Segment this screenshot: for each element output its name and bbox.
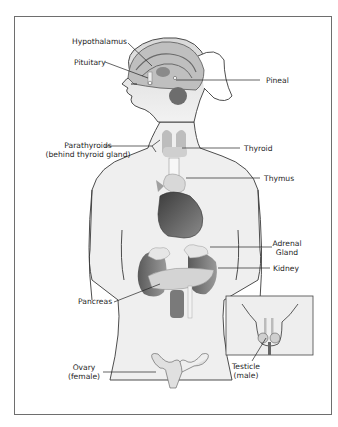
endocrine-diagram (0, 0, 338, 427)
label-adrenal-gland: Adrenal Gland (270, 239, 304, 257)
label-parathyroids: Parathyroids (behind thyroid gland) (38, 141, 138, 159)
label-hypothalamus: Hypothalamus (72, 37, 127, 46)
label-testicle-line2: (male) (226, 371, 266, 380)
label-parathyroids-line2: (behind thyroid gland) (38, 150, 138, 159)
label-ovary-line1: Ovary (64, 363, 104, 372)
label-pineal: Pineal (266, 76, 289, 85)
label-ovary: Ovary (female) (64, 363, 104, 381)
label-testicle: Testicle (male) (226, 362, 266, 380)
label-thymus: Thymus (264, 174, 294, 183)
label-kidney: Kidney (273, 264, 299, 273)
label-adrenal-line1: Adrenal (270, 239, 304, 248)
label-adrenal-line2: Gland (270, 248, 304, 257)
label-pancreas: Pancreas (78, 297, 112, 306)
testicle-inset (226, 296, 313, 355)
label-testicle-line1: Testicle (226, 362, 266, 371)
label-thyroid: Thyroid (244, 144, 272, 153)
label-pituitary: Pituitary (74, 58, 106, 67)
label-parathyroids-line1: Parathyroids (38, 141, 138, 150)
label-ovary-line2: (female) (64, 372, 104, 381)
